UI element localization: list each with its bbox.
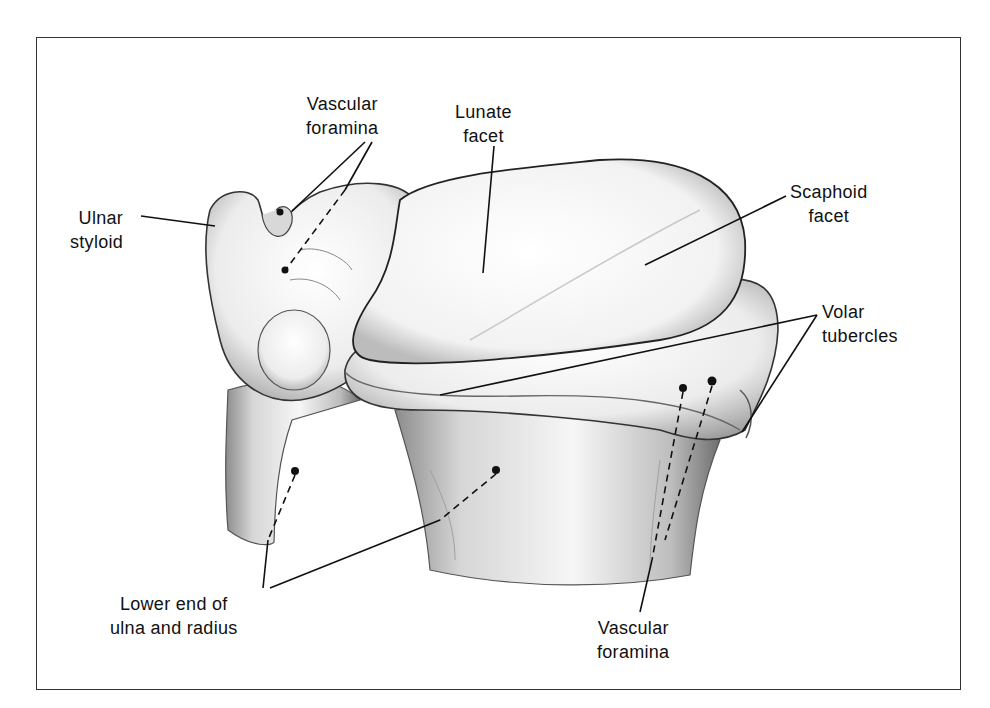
label-vascular-foramina-bottom: Vascular foramina [597, 616, 669, 664]
label-lunate-facet: Lunate facet [455, 100, 512, 148]
radius [345, 159, 778, 585]
label-scaphoid-facet: Scaphoid facet [790, 180, 867, 228]
label-ulnar-styloid: Ulnar styloid [70, 206, 123, 254]
label-lower-end-ulna-radius: Lower end of ulna and radius [110, 592, 238, 640]
label-vascular-foramina-top: Vascular foramina [306, 92, 378, 140]
ulnar-head-knob [258, 310, 330, 390]
label-volar-tubercles: Volar tubercles [822, 300, 898, 348]
